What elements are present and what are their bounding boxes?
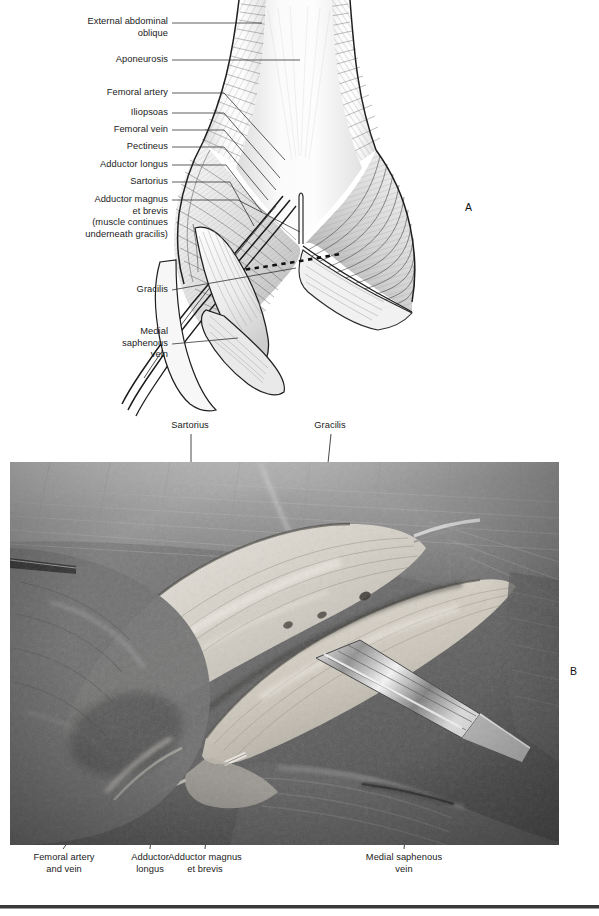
label-femoral-artery: Femoral artery xyxy=(20,87,168,99)
photo-label-gracilis: Gracilis xyxy=(285,420,375,432)
label-adductor-magnus-et-brevis: Adductor magnus et brevis (muscle contin… xyxy=(10,194,168,240)
footer-rule xyxy=(0,905,599,908)
label-external-abdominal-oblique: External abdominal oblique xyxy=(20,16,168,39)
label-medial-saphenous-vein: Medial saphenous vein xyxy=(20,326,168,361)
photo-label-adductor-magnus-et-brevis: Adductor magnus et brevis xyxy=(148,852,262,875)
label-sartorius: Sartorius xyxy=(20,176,168,188)
photo-label-sartorius: Sartorius xyxy=(145,420,235,432)
label-pectineus: Pectineus xyxy=(20,141,168,153)
label-iliopsoas: Iliopsoas xyxy=(20,107,168,119)
anatomical-figure: External abdominal oblique Aponeurosis F… xyxy=(0,0,599,916)
dissection-photograph xyxy=(10,462,559,845)
label-aponeurosis: Aponeurosis xyxy=(20,54,168,66)
panel-a-letter: A xyxy=(465,201,472,213)
panel-b: Sartorius Gracilis xyxy=(0,415,599,916)
label-femoral-vein: Femoral vein xyxy=(20,124,168,136)
label-adductor-longus: Adductor longus xyxy=(20,159,168,171)
label-gracilis: Gracilis xyxy=(20,284,168,296)
photo-label-medial-saphenous-vein: Medial saphenous vein xyxy=(348,852,460,875)
panel-b-letter: B xyxy=(570,665,577,677)
photo-label-femoral-artery-and-vein: Femoral artery and vein xyxy=(10,852,118,875)
